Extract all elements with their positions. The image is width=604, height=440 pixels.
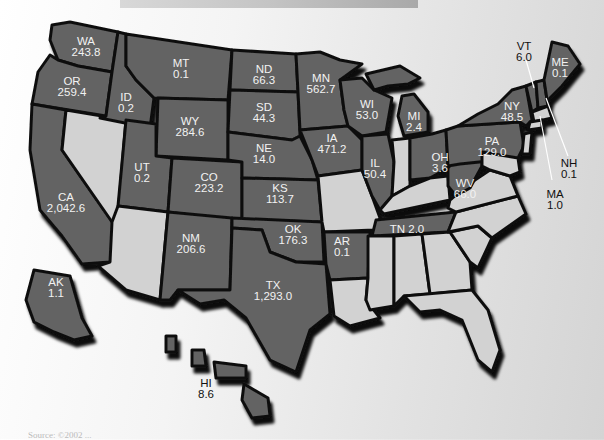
label-tx: TX1,293.0 xyxy=(254,280,292,302)
label-hi: HI8.6 xyxy=(198,378,214,400)
label-wi: WI53.0 xyxy=(356,99,378,121)
label-ut: UT0.2 xyxy=(134,162,150,184)
label-mt: MT0.1 xyxy=(173,58,190,80)
label-ne: NE14.0 xyxy=(253,143,275,165)
label-ak: AK1.1 xyxy=(48,277,64,299)
label-nh: NH0.1 xyxy=(561,158,578,180)
label-sd: SD44.3 xyxy=(253,102,275,124)
state-hi-3 xyxy=(214,362,246,378)
label-oh: OH3.6 xyxy=(431,152,448,174)
state-hi-1 xyxy=(166,336,176,352)
label-id: ID0.2 xyxy=(118,92,134,114)
label-il: IL50.4 xyxy=(364,158,386,180)
label-me: ME0.1 xyxy=(551,57,568,79)
label-ks: KS113.7 xyxy=(266,183,294,205)
state-nj xyxy=(522,132,532,154)
label-ia: IA471.2 xyxy=(318,133,347,155)
label-nd: ND66.3 xyxy=(253,64,275,86)
label-ar: AR0.1 xyxy=(334,236,350,258)
label-pa: PA129.0 xyxy=(478,136,507,158)
state-hi-2 xyxy=(192,350,206,366)
label-wy: WY284.6 xyxy=(176,116,205,138)
label-mi: MI2.4 xyxy=(406,111,422,133)
label-wa: WA243.8 xyxy=(72,36,101,58)
label-ny: NY48.5 xyxy=(501,101,523,123)
label-ma: MA1.0 xyxy=(546,189,563,211)
state-nm xyxy=(160,212,232,300)
state-hi-4 xyxy=(242,384,270,418)
label-vt: VT6.0 xyxy=(516,41,532,63)
state-mi-up xyxy=(366,66,420,90)
state-fl xyxy=(404,290,500,372)
label-co: CO223.2 xyxy=(195,172,224,194)
label-or: OR259.4 xyxy=(58,76,87,98)
label-ok: OK176.3 xyxy=(279,224,308,246)
label-nm: NM206.6 xyxy=(177,233,206,255)
label-ca: CA2,042.6 xyxy=(47,192,85,214)
label-wv: WV66.0 xyxy=(454,178,476,200)
state-ms xyxy=(366,236,394,310)
state-ct xyxy=(528,120,542,130)
label-mn: MN562.7 xyxy=(307,73,336,95)
callout-nh xyxy=(546,98,568,156)
label-tn: TN 2.0 xyxy=(390,224,425,235)
callout-ma xyxy=(540,116,552,180)
source-note: Source: ©2002 ... xyxy=(28,430,92,440)
